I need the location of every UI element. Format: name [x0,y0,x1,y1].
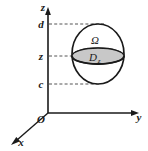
omega-label: Ω [91,34,99,46]
z-axis-label: z [40,1,46,13]
y-axis-label: y [135,111,142,123]
tick-label-z: z [38,50,44,62]
z-axis-arrowhead [45,7,51,15]
diagram-canvas: z y x O d z c Ω D z [0,0,148,151]
coordinate-diagram: z y x O d z c Ω D z [0,0,148,151]
axes-group [11,7,139,145]
x-axis-label: x [17,136,24,148]
cross-section-subscript: z [97,57,101,65]
tick-label-d: d [38,18,44,30]
tick-label-c: c [39,78,44,90]
cross-section-label: D [88,51,97,63]
origin-label: O [37,113,45,125]
